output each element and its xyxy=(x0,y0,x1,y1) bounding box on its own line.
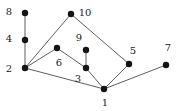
graph-node-10[interactable] xyxy=(68,11,74,17)
graph-edge xyxy=(25,68,104,89)
edge-layer xyxy=(25,13,166,89)
graph-node-9[interactable] xyxy=(83,47,89,53)
node-layer xyxy=(22,10,169,92)
graph-node-3[interactable] xyxy=(83,65,89,71)
graph-figure: 81049657231 xyxy=(0,0,180,111)
graph-node-8[interactable] xyxy=(22,10,28,16)
node-label-1: 1 xyxy=(102,98,108,108)
node-label-4: 4 xyxy=(6,34,12,44)
node-label-2: 2 xyxy=(6,64,12,74)
graph-node-4[interactable] xyxy=(22,37,28,43)
graph-edge xyxy=(25,14,71,68)
graph-node-7[interactable] xyxy=(163,62,169,68)
node-label-8: 8 xyxy=(6,7,12,17)
graph-edge xyxy=(86,68,104,89)
graph-node-1[interactable] xyxy=(101,86,107,92)
node-label-10: 10 xyxy=(79,8,92,18)
node-label-7: 7 xyxy=(165,43,171,53)
graph-node-5[interactable] xyxy=(126,61,132,67)
graph-edge xyxy=(104,64,129,89)
node-label-9: 9 xyxy=(76,33,82,43)
node-label-5: 5 xyxy=(130,46,136,56)
graph-node-2[interactable] xyxy=(22,65,28,71)
graph-node-6[interactable] xyxy=(54,45,60,51)
graph-edge xyxy=(104,65,166,89)
graph-edge xyxy=(25,48,57,68)
node-label-6: 6 xyxy=(56,58,62,68)
node-label-3: 3 xyxy=(75,74,81,84)
